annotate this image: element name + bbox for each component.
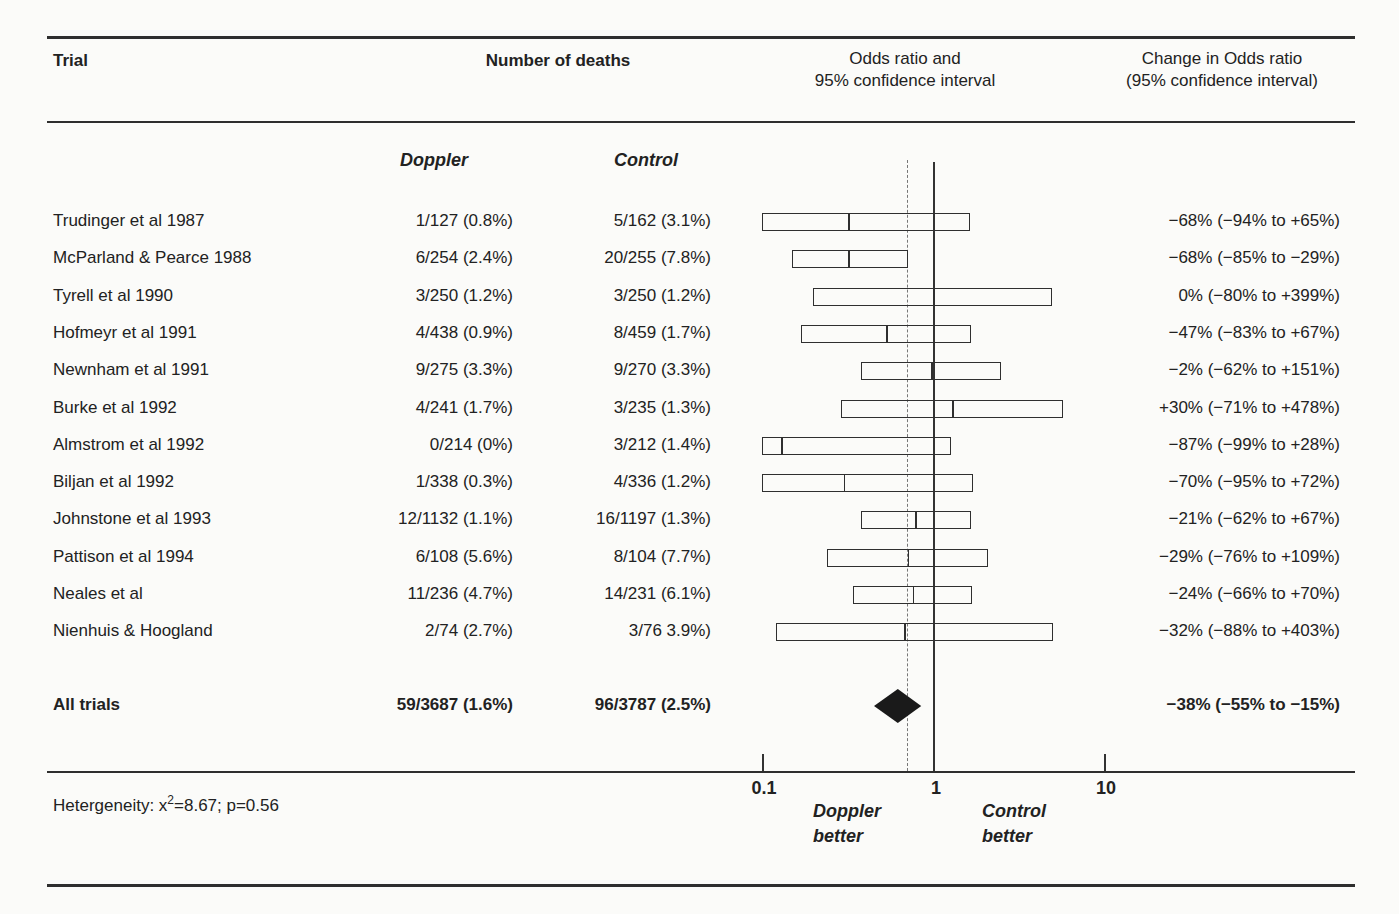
change-in-odds-ratio: −68% (−94% to +65%)	[1168, 211, 1340, 231]
axis-tick-label: 0.1	[751, 778, 776, 799]
point-estimate-tick	[933, 288, 935, 306]
doppler-deaths: 1/338 (0.3%)	[416, 472, 513, 492]
point-estimate-tick	[908, 549, 910, 567]
column-header-odds-ratio-line1: Odds ratio and	[815, 48, 996, 70]
control-better-line1: Control	[982, 799, 1046, 824]
control-deaths: 20/255 (7.8%)	[604, 248, 711, 268]
heterogeneity-note-suffix: =8.67; p=0.56	[174, 796, 279, 815]
change-in-odds-ratio: 0% (−80% to +399%)	[1178, 286, 1340, 306]
control-deaths: 5/162 (3.1%)	[614, 211, 711, 231]
control-deaths: 3/250 (1.2%)	[614, 286, 711, 306]
control-deaths: 16/1197 (1.3%)	[596, 509, 711, 529]
trial-name: McParland & Pearce 1988	[53, 248, 251, 268]
trial-name: Trudinger et al 1987	[53, 211, 205, 231]
confidence-interval-box	[762, 437, 951, 455]
column-header-odds-ratio-line2: 95% confidence interval	[815, 70, 996, 92]
control-better-label: Control better	[982, 799, 1046, 849]
doppler-deaths: 4/438 (0.9%)	[416, 323, 513, 343]
point-estimate-tick	[904, 623, 906, 641]
change-in-odds-ratio: −47% (−83% to +67%)	[1168, 323, 1340, 343]
pooled-estimate-diamond	[873, 688, 923, 724]
point-estimate-tick	[915, 511, 917, 529]
control-deaths: 96/3787 (2.5%)	[595, 695, 711, 715]
trial-name: All trials	[53, 695, 120, 715]
axis-tick-label: 10	[1096, 778, 1116, 799]
column-header-odds-ratio: Odds ratio and 95% confidence interval	[815, 48, 996, 92]
column-header-change-line1: Change in Odds ratio	[1126, 48, 1318, 70]
doppler-deaths: 6/254 (2.4%)	[416, 248, 513, 268]
doppler-deaths: 11/236 (4.7%)	[407, 584, 513, 604]
control-deaths: 8/104 (7.7%)	[614, 547, 711, 567]
axis-tick-mark	[933, 754, 935, 771]
control-better-line2: better	[982, 824, 1046, 849]
point-estimate-tick	[844, 474, 846, 492]
trial-name: Johnstone et al 1993	[53, 509, 211, 529]
axis-baseline-rule	[47, 771, 1355, 773]
heterogeneity-note: Hetergeneity: x2=8.67; p=0.56	[53, 793, 279, 816]
trial-name: Biljan et al 1992	[53, 472, 174, 492]
trial-name: Tyrell et al 1990	[53, 286, 173, 306]
header-divider-rule	[47, 121, 1355, 123]
change-in-odds-ratio: −29% (−76% to +109%)	[1159, 547, 1340, 567]
control-deaths: 9/270 (3.3%)	[614, 360, 711, 380]
confidence-interval-box	[776, 623, 1053, 641]
doppler-deaths: 3/250 (1.2%)	[416, 286, 513, 306]
subheader-doppler: Doppler	[400, 150, 468, 171]
trial-name: Newnham et al 1991	[53, 360, 209, 380]
heterogeneity-note-prefix: Hetergeneity: x	[53, 796, 167, 815]
doppler-deaths: 0/214 (0%)	[430, 435, 513, 455]
point-estimate-tick	[848, 213, 850, 231]
axis-tick-label: 1	[931, 778, 941, 799]
doppler-better-line2: better	[813, 824, 881, 849]
column-header-change-line2: (95% confidence interval)	[1126, 70, 1318, 92]
bottom-rule	[47, 884, 1355, 887]
axis-tick-mark	[762, 754, 764, 771]
trial-name: Hofmeyr et al 1991	[53, 323, 197, 343]
trial-name: Nienhuis & Hoogland	[53, 621, 213, 641]
doppler-deaths: 6/108 (5.6%)	[416, 547, 513, 567]
confidence-interval-box	[762, 213, 970, 231]
change-in-odds-ratio: −32% (−88% to +403%)	[1159, 621, 1340, 641]
trial-name: Neales et al	[53, 584, 143, 604]
subheader-control: Control	[614, 150, 678, 171]
point-estimate-tick	[848, 250, 850, 268]
change-in-odds-ratio: −21% (−62% to +67%)	[1168, 509, 1340, 529]
column-header-number-of-deaths: Number of deaths	[486, 50, 631, 72]
change-in-odds-ratio: +30% (−71% to +478%)	[1159, 398, 1340, 418]
trial-name: Burke et al 1992	[53, 398, 177, 418]
change-in-odds-ratio: −87% (−99% to +28%)	[1168, 435, 1340, 455]
trial-name: Almstrom et al 1992	[53, 435, 204, 455]
point-estimate-tick	[886, 325, 888, 343]
change-in-odds-ratio: −68% (−85% to −29%)	[1168, 248, 1340, 268]
odds-ratio-1-reference-line	[933, 162, 935, 771]
confidence-interval-box	[762, 474, 973, 492]
point-estimate-tick	[952, 400, 954, 418]
doppler-deaths: 1/127 (0.8%)	[416, 211, 513, 231]
change-in-odds-ratio: −2% (−62% to +151%)	[1168, 360, 1340, 380]
control-deaths: 3/76 3.9%)	[629, 621, 711, 641]
change-in-odds-ratio: −24% (−66% to +70%)	[1168, 584, 1340, 604]
axis-tick-mark	[1104, 754, 1106, 771]
doppler-deaths: 12/1132 (1.1%)	[398, 509, 513, 529]
forest-plot-figure: Trial Number of deaths Odds ratio and 95…	[0, 0, 1399, 914]
point-estimate-tick	[781, 437, 783, 455]
column-header-trial: Trial	[53, 50, 88, 72]
top-rule	[47, 36, 1355, 39]
point-estimate-tick	[913, 586, 915, 604]
column-header-change-in-odds-ratio: Change in Odds ratio (95% confidence int…	[1126, 48, 1318, 92]
change-in-odds-ratio: −70% (−95% to +72%)	[1168, 472, 1340, 492]
doppler-deaths: 4/241 (1.7%)	[416, 398, 513, 418]
control-deaths: 14/231 (6.1%)	[604, 584, 711, 604]
doppler-deaths: 59/3687 (1.6%)	[397, 695, 513, 715]
point-estimate-tick	[931, 362, 933, 380]
doppler-better-line1: Doppler	[813, 799, 881, 824]
control-deaths: 3/212 (1.4%)	[614, 435, 711, 455]
change-in-odds-ratio: −38% (−55% to −15%)	[1167, 695, 1340, 715]
doppler-better-label: Doppler better	[813, 799, 881, 849]
doppler-deaths: 9/275 (3.3%)	[416, 360, 513, 380]
trial-name: Pattison et al 1994	[53, 547, 194, 567]
control-deaths: 4/336 (1.2%)	[614, 472, 711, 492]
control-deaths: 3/235 (1.3%)	[614, 398, 711, 418]
doppler-deaths: 2/74 (2.7%)	[425, 621, 513, 641]
control-deaths: 8/459 (1.7%)	[614, 323, 711, 343]
